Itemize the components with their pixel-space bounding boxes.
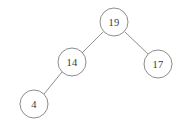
edge-group — [44, 32, 148, 94]
node-14[interactable]: 14 — [58, 48, 86, 76]
node-label-4: 4 — [31, 99, 37, 110]
node-17[interactable]: 17 — [144, 50, 172, 78]
edge-19-to-14 — [82, 32, 103, 53]
node-label-14: 14 — [67, 57, 78, 68]
node-19[interactable]: 19 — [100, 8, 128, 36]
edge-19-to-17 — [125, 32, 148, 54]
node-label-19: 19 — [109, 17, 120, 28]
tree-diagram-canvas: 19 14 17 4 — [0, 0, 179, 126]
node-4[interactable]: 4 — [20, 90, 48, 118]
node-label-17: 17 — [153, 59, 164, 70]
tree-diagram-svg: 19 14 17 4 — [0, 0, 179, 126]
edge-14-to-4 — [44, 72, 62, 94]
